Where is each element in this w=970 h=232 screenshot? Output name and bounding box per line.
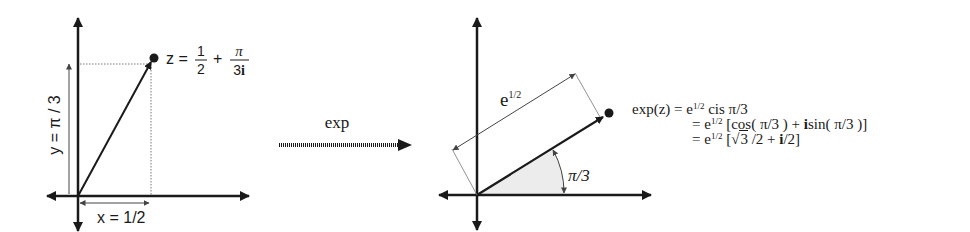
y-value-label: y = π / 3 xyxy=(46,95,63,155)
magnitude-dimension-line xyxy=(453,74,575,150)
equation-line-2: = e1/2 [cos( π/3 ) + isin( π/3 )] xyxy=(632,114,867,129)
eq1-exponent: 1/2 xyxy=(693,101,705,111)
eq3-rhs-a: [ xyxy=(722,131,731,147)
equation-line-1: exp(z) = e1/2 cis π/3 xyxy=(632,99,867,114)
left-vector-z xyxy=(78,62,151,196)
frac2-denominator: 3i xyxy=(233,62,245,78)
point-z-dot xyxy=(150,54,159,63)
right-complex-plane: e1/2 π/3 xyxy=(439,18,651,230)
exp-label: exp xyxy=(325,113,350,132)
magnitude-label: e1/2 xyxy=(500,89,521,110)
magnitude-extension-origin xyxy=(452,149,477,195)
eq2-exponent: 1/2 xyxy=(711,116,723,126)
angle-label: π/3 xyxy=(568,166,590,185)
eq3-exponent: 1/2 xyxy=(711,131,723,141)
sqrt-argument: 3 xyxy=(739,130,748,147)
z-equals: z = xyxy=(166,50,188,67)
equation-block: exp(z) = e1/2 cis π/3 = e1/2 [cos( π/3 )… xyxy=(632,99,867,144)
equation-line-3: = e1/2 [√3 /2 + i/2] xyxy=(632,129,867,144)
plus-sign: + xyxy=(213,50,222,67)
point-exp-z-dot xyxy=(605,109,614,118)
frac1-denominator: 2 xyxy=(197,61,205,77)
eq3-rhs-b: /2 + xyxy=(748,131,779,147)
exp-mapping: exp xyxy=(279,113,412,151)
eq3-lhs: = e xyxy=(692,131,711,147)
eq3-rhs-c: /2] xyxy=(783,131,800,147)
magnitude-extension-tip xyxy=(575,73,600,117)
left-complex-plane: x = 1/2 y = π / 3 z = 1 2 + π 3i xyxy=(46,18,249,231)
frac2-numerator: π xyxy=(235,43,243,59)
exp-arrow-head xyxy=(398,139,412,151)
point-z-label: z = 1 2 + π 3i xyxy=(166,43,249,78)
angle-wedge xyxy=(477,150,565,195)
frac1-numerator: 1 xyxy=(197,43,205,59)
x-value-label: x = 1/2 xyxy=(97,209,146,226)
